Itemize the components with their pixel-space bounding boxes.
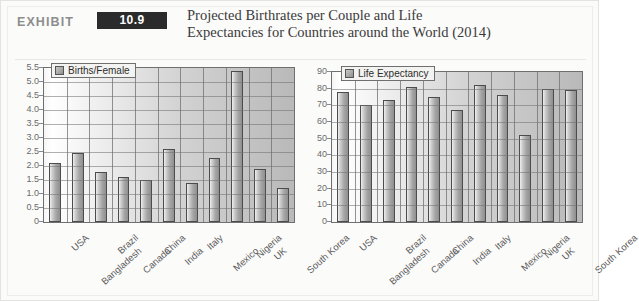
gridline-horizontal — [44, 138, 294, 139]
y-axis-tick-label: 60 — [303, 117, 327, 126]
x-axis-tick-label: UK — [559, 245, 576, 262]
x-axis-label-cell: UK — [268, 240, 281, 258]
exhibit-label: EXHIBIT — [17, 15, 74, 29]
x-axis-label-cell: India — [177, 240, 198, 258]
gridline-horizontal — [44, 152, 294, 153]
plot-area-right — [331, 71, 583, 223]
bar-nigeria — [231, 71, 243, 222]
bar-cell — [423, 72, 446, 222]
bar-cell — [249, 68, 272, 222]
gridline-horizontal — [332, 172, 582, 173]
bar-cell — [559, 72, 582, 222]
bar-cell — [355, 72, 378, 222]
y-axis-tick — [39, 123, 43, 124]
bar-cell — [44, 68, 67, 222]
y-axis-tick — [327, 88, 331, 89]
gridline-vertical — [400, 72, 401, 222]
bar-usa — [337, 92, 349, 222]
y-axis-tick-label: 90 — [303, 67, 327, 76]
gridline-horizontal — [44, 82, 294, 83]
x-axis-tick-label: India — [470, 245, 493, 267]
bar-bangladesh — [72, 153, 84, 222]
gridline-vertical — [423, 72, 424, 222]
gridline-vertical — [158, 68, 159, 222]
x-axis-label-cell: Italy — [488, 227, 505, 245]
bar-series-left — [44, 68, 294, 222]
page-title: Projected Birthrates per Couple and Life… — [187, 7, 587, 41]
bar-brazil — [383, 100, 395, 222]
y-axis-tick — [327, 204, 331, 205]
y-axis-tick-label: 30 — [303, 167, 327, 176]
y-axis-tick-label: 0 — [303, 217, 327, 226]
header-divider — [15, 59, 586, 60]
gridline-vertical — [112, 68, 113, 222]
x-axis-label-cell: Italy — [200, 227, 217, 245]
legend-label: Births/Female — [68, 65, 130, 76]
bar-canada — [118, 177, 130, 222]
y-axis-tick — [39, 109, 43, 110]
y-axis-tick-label: 1.0 — [11, 189, 39, 198]
bar-nigeria — [519, 135, 531, 222]
y-axis-tick — [327, 171, 331, 172]
bar-cell — [491, 72, 514, 222]
bar-cell — [514, 72, 537, 222]
x-axis-tick-label: UK — [271, 245, 288, 262]
legend-births-per-female: Births/Female — [51, 63, 136, 78]
y-axis-tick-label: 4.0 — [11, 105, 39, 114]
gridline-horizontal — [332, 89, 582, 90]
y-axis-tick — [39, 137, 43, 138]
x-axis-label-cell: India — [465, 240, 486, 258]
y-axis-tick — [39, 81, 43, 82]
y-axis-tick-label: 3.0 — [11, 133, 39, 142]
bar-cell — [271, 68, 294, 222]
gridline-vertical — [135, 68, 136, 222]
x-axis-label-cell: UK — [556, 240, 569, 258]
y-axis-tick — [327, 121, 331, 122]
gridline-horizontal — [332, 189, 582, 190]
bar-cell — [332, 72, 355, 222]
y-axis-tick-label: 2.0 — [11, 161, 39, 170]
gridline-vertical — [468, 72, 469, 222]
gridline-vertical — [537, 72, 538, 222]
bar-china — [140, 180, 152, 222]
gridline-vertical — [249, 68, 250, 222]
gridline-vertical — [67, 68, 68, 222]
bar-uk — [254, 169, 266, 222]
legend-life-expectancy: Life Expectancy — [341, 66, 435, 81]
legend-swatch-icon — [55, 66, 64, 75]
bar-cell — [89, 68, 112, 222]
y-axis-tick — [39, 151, 43, 152]
y-axis-tick-label: 5.0 — [11, 77, 39, 86]
y-axis-tick-label: 20 — [303, 184, 327, 193]
y-axis-tick — [327, 154, 331, 155]
bar-cell — [468, 72, 491, 222]
y-axis-tick — [327, 188, 331, 189]
x-axis-label-cell: USA — [64, 227, 84, 245]
gridline-horizontal — [44, 180, 294, 181]
gridline-vertical — [89, 68, 90, 222]
legend-swatch-icon — [345, 69, 354, 78]
x-axis-labels-left: USABangladeshBrazilCanadaChinaIndiaItaly… — [43, 225, 295, 295]
gridline-vertical — [559, 72, 560, 222]
y-axis-tick-label: 0 — [11, 217, 39, 226]
y-axis-tick-label: 1.5 — [11, 175, 39, 184]
bar-series-right — [332, 72, 582, 222]
y-axis-tick — [39, 67, 43, 68]
bar-china — [428, 97, 440, 222]
x-axis-label-cell: USA — [352, 227, 372, 245]
x-axis-labels-right: USABangladeshBrazilCanadaChinaIndiaItaly… — [331, 225, 583, 295]
y-axis-tick — [39, 95, 43, 96]
gridline-vertical — [377, 72, 378, 222]
gridline-vertical — [180, 68, 181, 222]
y-axis-tick — [39, 179, 43, 180]
bar-cell — [112, 68, 135, 222]
gridline-vertical — [203, 68, 204, 222]
bar-cell — [158, 68, 181, 222]
bar-cell — [180, 68, 203, 222]
y-axis-tick-label: 5.5 — [11, 63, 39, 72]
x-axis-tick-label: South Korea — [593, 232, 639, 276]
y-axis-tick — [327, 71, 331, 72]
plot-area-left — [43, 67, 295, 223]
bar-cell — [135, 68, 158, 222]
